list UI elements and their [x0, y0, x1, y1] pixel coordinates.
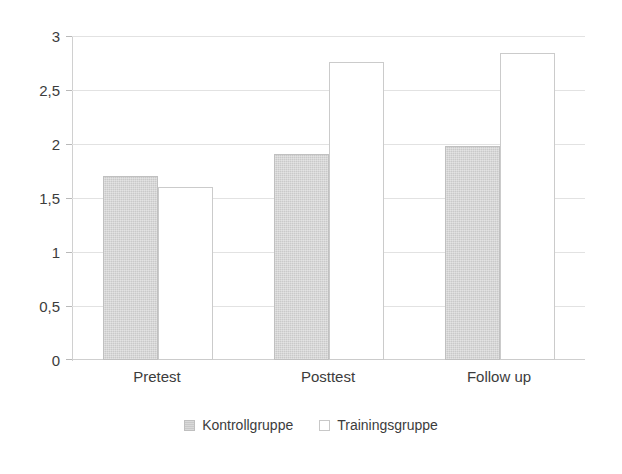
- x-tick-label-followup: Follow up: [467, 368, 531, 385]
- bar-kontrollgruppe-followup: [445, 146, 500, 360]
- legend-swatch-empty-square-icon: [319, 420, 330, 431]
- x-tick-label-pretest: Pretest: [133, 368, 181, 385]
- y-tick-label: 1: [52, 244, 60, 261]
- legend-item-trainingsgruppe: Trainingsgruppe: [319, 417, 438, 433]
- x-tick-label-posttest: Posttest: [301, 368, 355, 385]
- bar-trainingsgruppe-followup: [500, 53, 555, 360]
- legend-item-kontrollgruppe: Kontrollgruppe: [184, 417, 293, 433]
- bar-kontrollgruppe-posttest: [274, 154, 329, 360]
- y-tick-label: 3: [52, 28, 60, 45]
- y-tick-label: 0: [52, 352, 60, 369]
- y-tick-label: 0,5: [39, 298, 60, 315]
- x-axis-labels: Pretest Posttest Follow up: [72, 368, 585, 396]
- legend-label: Trainingsgruppe: [337, 417, 438, 433]
- y-tick-label: 1,5: [39, 190, 60, 207]
- y-axis-labels: 3 2,5 2 1,5 1 0,5 0: [0, 36, 60, 360]
- bar-trainingsgruppe-posttest: [329, 62, 384, 360]
- bar-kontrollgruppe-pretest: [103, 176, 158, 360]
- y-tick-label: 2,5: [39, 82, 60, 99]
- legend: Kontrollgruppe Trainingsgruppe: [0, 417, 622, 433]
- bar-chart: 3 2,5 2 1,5 1 0,5 0 Pretest Posttest Fol…: [0, 0, 622, 474]
- bars-layer: [72, 36, 585, 360]
- plot-area: [72, 36, 585, 360]
- legend-swatch-filled-square-icon: [184, 420, 195, 431]
- y-tick-label: 2: [52, 136, 60, 153]
- legend-label: Kontrollgruppe: [202, 417, 293, 433]
- bar-trainingsgruppe-pretest: [158, 187, 213, 360]
